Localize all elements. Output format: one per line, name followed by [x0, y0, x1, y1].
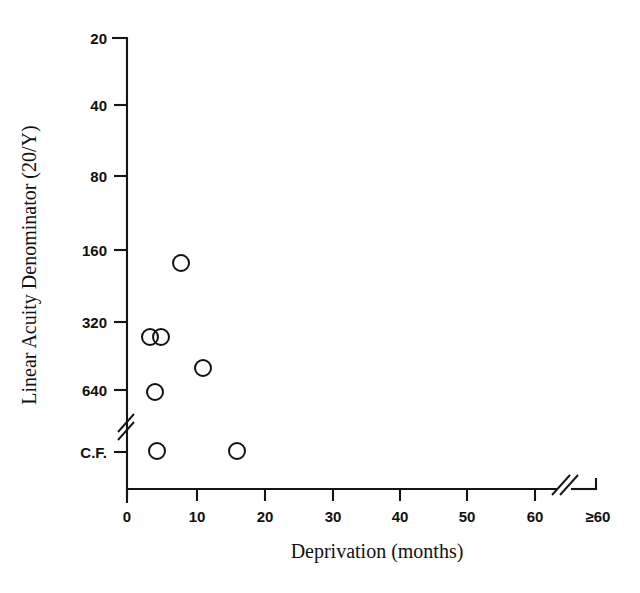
data-point	[149, 443, 165, 459]
data-point	[147, 384, 163, 400]
x-tick-label-0: 0	[123, 508, 131, 525]
x-tick-label-60: 60	[527, 508, 544, 525]
data-point	[195, 360, 211, 376]
y-tick-label-80: 80	[90, 168, 107, 185]
data-points-group	[142, 255, 245, 459]
y-axis-title: Linear Acuity Denominator (20/Y)	[18, 125, 41, 404]
chart-svg: 20 40 80 160 320 640 C.F.	[0, 0, 640, 593]
x-axis-title: Deprivation (months)	[291, 540, 464, 563]
y-tick-label-320: 320	[82, 314, 107, 331]
x-tick-label-30: 30	[325, 508, 342, 525]
x-axis-break-icon	[552, 475, 578, 495]
x-tick-label-50: 50	[459, 508, 476, 525]
y-tick-label-20: 20	[90, 30, 107, 47]
data-point	[173, 255, 189, 271]
y-tick-label-160: 160	[82, 242, 107, 259]
data-point	[153, 329, 169, 345]
x-axis: 0 10 20 30 40 50 60 ≥60	[123, 475, 611, 525]
y-tick-label-cf: C.F.	[80, 444, 107, 461]
y-tick-label-640: 640	[82, 382, 107, 399]
x-tick-label-greater-than-60: ≥60	[586, 508, 611, 525]
x-tick-label-20: 20	[257, 508, 274, 525]
x-tick-label-10: 10	[189, 508, 206, 525]
scatter-plot-figure: 20 40 80 160 320 640 C.F.	[0, 0, 640, 593]
data-point	[229, 443, 245, 459]
y-axis: 20 40 80 160 320 640 C.F.	[80, 30, 134, 497]
y-tick-label-40: 40	[90, 97, 107, 114]
x-tick-label-40: 40	[392, 508, 409, 525]
